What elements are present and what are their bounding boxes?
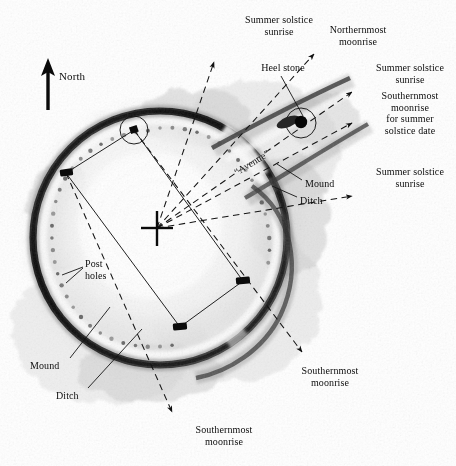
sightline-northernmost-moonrise bbox=[157, 54, 314, 228]
stonehenge-alignment-figure: North “Avenue” Summer solsticesunriseNor… bbox=[0, 0, 456, 466]
leader-mound-left bbox=[70, 307, 110, 358]
post-holes-label: Postholes bbox=[85, 258, 125, 281]
ssr-e-line-1: sunrise bbox=[364, 178, 456, 190]
south-moon-s-label: Southernmostmoonrise bbox=[176, 424, 272, 447]
sightline-southernmost-moonrise-ss bbox=[157, 123, 352, 228]
south-moon-se-label: Southernmostmoonrise bbox=[282, 365, 378, 388]
leader-ditch-left bbox=[88, 329, 142, 388]
sightline-southernmost-moonrise-s bbox=[66, 173, 172, 412]
south-moon-se-line-0: Southernmost bbox=[282, 365, 378, 377]
south-moon-s-line-0: Southernmost bbox=[176, 424, 272, 436]
sightline-summer-solstice-sunrise-nw bbox=[157, 62, 214, 228]
south-moon-ss-label: Southernmostmoonrisefor summersolstice d… bbox=[364, 90, 456, 136]
leader-ditch-right bbox=[272, 186, 297, 197]
station-stone-south bbox=[173, 322, 188, 330]
leader-mound-right bbox=[277, 164, 302, 180]
post-holes-line-1: holes bbox=[85, 270, 125, 282]
ditch-left-label: Ditch bbox=[56, 390, 96, 402]
station-stone-north-west bbox=[120, 116, 148, 144]
heel-stone-marker bbox=[275, 108, 316, 138]
leader-heel-stone bbox=[281, 76, 303, 116]
heel-stone-label: Heel stone bbox=[248, 62, 318, 74]
post-holes-line-0: Post bbox=[85, 258, 125, 270]
ssr-ne-line-0: Summer solstice bbox=[364, 62, 456, 74]
north-arrow-icon bbox=[41, 58, 55, 110]
ssr-ne-label: Summer solsticesunrise bbox=[364, 62, 456, 85]
north-moon-label: Northernmostmoonrise bbox=[308, 24, 408, 47]
ssr-e-line-0: Summer solstice bbox=[364, 166, 456, 178]
mound-left-label: Mound bbox=[30, 360, 76, 372]
south-moon-ss-line-3: solstice date bbox=[364, 125, 456, 137]
south-moon-ss-line-2: for summer bbox=[364, 113, 456, 125]
ditch-right-label: Ditch bbox=[300, 195, 340, 207]
leader-lines bbox=[62, 76, 303, 388]
north-moon-line-0: Northernmost bbox=[308, 24, 408, 36]
south-moon-s-line-1: moonrise bbox=[176, 436, 272, 448]
station-stone-east bbox=[236, 276, 251, 284]
south-moon-se-line-1: moonrise bbox=[282, 377, 378, 389]
south-moon-ss-line-1: moonrise bbox=[364, 102, 456, 114]
heel-stone-line-0: Heel stone bbox=[248, 62, 318, 74]
mound-right-line-0: Mound bbox=[305, 178, 349, 190]
ssr-ne-line-1: sunrise bbox=[364, 74, 456, 86]
ditch-right-line-0: Ditch bbox=[300, 195, 340, 207]
north-label: North bbox=[59, 71, 85, 83]
sightline-group bbox=[66, 54, 352, 412]
ditch-left-line-0: Ditch bbox=[56, 390, 96, 402]
ssr-e-label: Summer solsticesunrise bbox=[364, 166, 456, 189]
station-stone-west bbox=[60, 168, 74, 177]
mound-left-line-0: Mound bbox=[30, 360, 76, 372]
mound-right-label: Mound bbox=[305, 178, 349, 190]
south-moon-ss-line-0: Southernmost bbox=[364, 90, 456, 102]
north-moon-line-1: moonrise bbox=[308, 36, 408, 48]
